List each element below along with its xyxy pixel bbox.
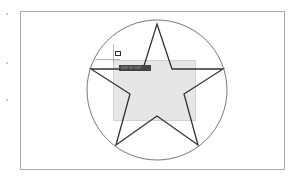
- anchor-handle-icon[interactable]: [115, 51, 121, 56]
- drawing-canvas[interactable]: [0, 0, 301, 181]
- dimension-tooltip: ### ## ###: [119, 65, 151, 71]
